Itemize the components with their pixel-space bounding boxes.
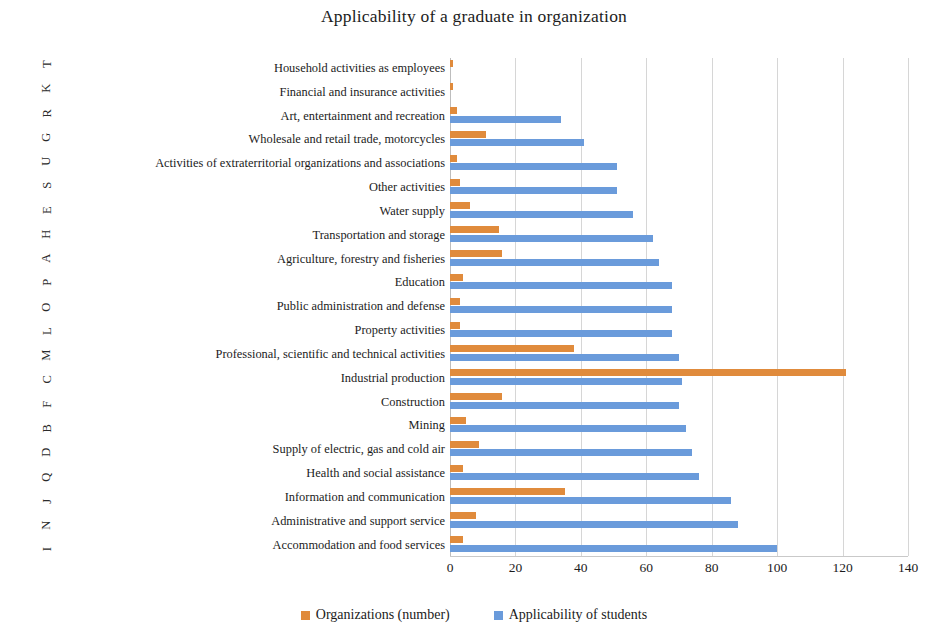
bar-applicability xyxy=(450,497,731,504)
x-tick-label: 100 xyxy=(767,560,787,576)
category-label: Financial and insurance activities xyxy=(120,82,445,103)
bar-organizations xyxy=(450,226,499,233)
category-label: Wholesale and retail trade, motorcycles xyxy=(120,129,445,150)
category-label: Other activities xyxy=(120,177,445,198)
bar-row xyxy=(450,535,908,556)
legend-label: Organizations (number) xyxy=(316,607,450,623)
legend-item[interactable]: Organizations (number) xyxy=(301,607,450,623)
category-label: Art, entertainment and recreation xyxy=(120,106,445,127)
x-tick-label: 80 xyxy=(705,560,719,576)
plot-area-wrapper: Household activities as employeesFinanci… xyxy=(0,58,948,556)
gridline xyxy=(908,58,909,556)
category-label: Education xyxy=(120,272,445,293)
category-label: Information and communication xyxy=(120,487,445,508)
bar-row xyxy=(450,392,908,413)
bar-organizations xyxy=(450,393,502,400)
bar-organizations xyxy=(450,322,460,329)
bar-row xyxy=(450,487,908,508)
bar-organizations xyxy=(450,465,463,472)
legend-item[interactable]: Applicability of students xyxy=(494,607,647,623)
category-label: Supply of electric, gas and cold air xyxy=(120,439,445,460)
bar-applicability xyxy=(450,354,679,361)
bar-applicability xyxy=(450,473,699,480)
category-label: Water supply xyxy=(120,201,445,222)
x-tick-label: 40 xyxy=(574,560,588,576)
x-axis-ticks: 020406080100120140 xyxy=(450,560,908,582)
bar-applicability xyxy=(450,449,692,456)
category-label: Transportation and storage xyxy=(120,225,445,246)
bar-applicability xyxy=(450,163,617,170)
bar-organizations xyxy=(450,60,453,67)
bar-applicability xyxy=(450,545,777,552)
bar-organizations xyxy=(450,417,466,424)
chart-root: Applicability of a graduate in organizat… xyxy=(0,0,948,637)
category-label: Construction xyxy=(120,392,445,413)
bar-row xyxy=(450,177,908,198)
bar-organizations xyxy=(450,179,460,186)
bar-row xyxy=(450,439,908,460)
bar-applicability xyxy=(450,259,659,266)
bar-row xyxy=(450,320,908,341)
bar-organizations xyxy=(450,250,502,257)
bar-organizations xyxy=(450,298,460,305)
bar-row xyxy=(450,344,908,365)
bar-organizations xyxy=(450,131,486,138)
category-label: Industrial production xyxy=(120,368,445,389)
bar-row xyxy=(450,368,908,389)
bar-organizations xyxy=(450,155,457,162)
legend-swatch-icon xyxy=(301,611,310,620)
category-label: Professional, scientific and technical a… xyxy=(120,344,445,365)
category-label: Accommodation and food services xyxy=(120,535,445,556)
category-label: Public administration and defense xyxy=(120,296,445,317)
bar-rows xyxy=(450,58,908,556)
x-tick-label: 120 xyxy=(832,560,852,576)
x-tick-label: 20 xyxy=(509,560,523,576)
bar-applicability xyxy=(450,139,584,146)
chart-legend: Organizations (number)Applicability of s… xyxy=(0,607,948,623)
category-label: Property activities xyxy=(120,320,445,341)
bar-row xyxy=(450,415,908,436)
bar-organizations xyxy=(450,345,574,352)
bar-row xyxy=(450,511,908,532)
x-tick-label: 0 xyxy=(447,560,454,576)
bar-organizations xyxy=(450,536,463,543)
bar-row xyxy=(450,153,908,174)
bar-applicability xyxy=(450,402,679,409)
category-label: Activities of extraterritorial organizat… xyxy=(120,153,445,174)
bar-organizations xyxy=(450,83,453,90)
category-label: Administrative and support service xyxy=(120,511,445,532)
bar-applicability xyxy=(450,378,682,385)
bar-organizations xyxy=(450,274,463,281)
category-label: Health and social assistance xyxy=(120,463,445,484)
bar-row xyxy=(450,106,908,127)
x-axis-line xyxy=(450,556,908,557)
bar-row xyxy=(450,225,908,246)
category-axis-labels: Household activities as employeesFinanci… xyxy=(120,58,445,556)
bar-applicability xyxy=(450,282,672,289)
bar-applicability xyxy=(450,330,672,337)
bar-row xyxy=(450,272,908,293)
bar-row xyxy=(450,129,908,150)
legend-label: Applicability of students xyxy=(509,607,647,623)
category-label: Agriculture, forestry and fisheries xyxy=(120,249,445,270)
bar-organizations xyxy=(450,202,470,209)
bar-applicability xyxy=(450,425,686,432)
bar-organizations xyxy=(450,107,457,114)
category-label: Mining xyxy=(120,415,445,436)
category-label: Household activities as employees xyxy=(120,58,445,79)
bar-row xyxy=(450,296,908,317)
bar-applicability xyxy=(450,521,738,528)
plot-area xyxy=(450,58,908,556)
bar-applicability xyxy=(450,187,617,194)
bar-applicability xyxy=(450,211,633,218)
bar-organizations xyxy=(450,369,846,376)
bar-organizations xyxy=(450,488,565,495)
chart-title: Applicability of a graduate in organizat… xyxy=(0,6,948,27)
bar-organizations xyxy=(450,441,479,448)
bar-row xyxy=(450,201,908,222)
bar-applicability xyxy=(450,116,561,123)
bar-row xyxy=(450,82,908,103)
bar-organizations xyxy=(450,512,476,519)
legend-swatch-icon xyxy=(494,611,503,620)
x-tick-label: 60 xyxy=(640,560,654,576)
